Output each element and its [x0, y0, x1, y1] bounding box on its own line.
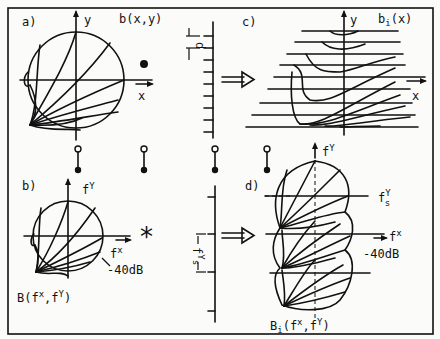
spectral-comb: fYs: [190, 186, 215, 322]
spacing-d-label: d: [193, 42, 207, 49]
multiply-dot-icon: [140, 60, 148, 68]
axis-x-label: fx: [389, 228, 402, 244]
panel-c: c) bi(x) y x: [242, 10, 427, 135]
panel-b-tag: b): [22, 179, 36, 193]
sampling-comb: d: [186, 22, 213, 138]
panel-a-tag: a): [22, 15, 36, 29]
axis-y-label: fY: [82, 181, 95, 197]
frame: [8, 8, 433, 334]
axis-y-label: fY: [322, 143, 335, 159]
panel-a: a) b(x,y) y x: [20, 10, 162, 140]
spacing-fs-label: fYs: [190, 247, 206, 265]
replica-top: [280, 161, 348, 228]
double-arrow-top-icon: [222, 72, 254, 87]
panel-d-tag: d): [245, 179, 259, 193]
fourier-pair-markers: [75, 146, 270, 173]
y-arrow-icon: [65, 178, 71, 185]
panel-c-tag: c): [242, 15, 256, 29]
x-arrow-icon: [147, 81, 154, 87]
x-axis-label: x: [138, 89, 145, 103]
y-axis-label: y: [84, 13, 91, 27]
panel-a-title: b(x,y): [119, 12, 162, 26]
fourier-pair-icon: [141, 146, 147, 173]
x-axis-label: x: [412, 89, 419, 103]
axis-x-label: fx: [110, 245, 123, 261]
level-40db-label: -40dB: [363, 247, 399, 261]
x-arrow-icon: [420, 78, 427, 84]
x-arrow-icon: [381, 235, 388, 241]
panel-d-title: Bi(fx,fY): [270, 317, 330, 335]
level-40db-label: -40dB: [107, 263, 143, 277]
fourier-pair-icon: [264, 146, 270, 173]
panel-b: b) fY fx -40dB B(fx,fY): [17, 178, 143, 305]
x-arrow-icon: [125, 237, 132, 243]
y-arrow-icon: [73, 10, 79, 17]
figure: a) b(x,y) y x: [0, 0, 440, 339]
fs-label: fYs: [378, 188, 391, 208]
y-arrow-icon: [312, 142, 318, 149]
convolve-star-icon: *: [140, 222, 153, 252]
panel-c-title: bi(x): [378, 12, 412, 28]
fourier-pair-icon: [212, 146, 218, 173]
y-arrow-icon: [341, 10, 347, 17]
fourier-pair-icon: [75, 146, 81, 173]
y-axis-label: y: [350, 13, 357, 27]
double-arrow-bottom-icon: [222, 228, 254, 243]
panel-b-title: B(fx,fY): [17, 289, 71, 305]
